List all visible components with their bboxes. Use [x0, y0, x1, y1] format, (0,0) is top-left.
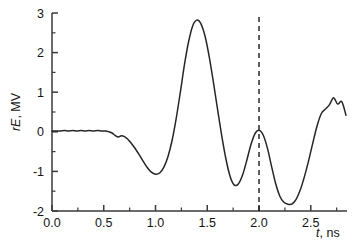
y-tick-label--1: -1: [33, 165, 44, 179]
x-tick-label-2.0: 2.0: [250, 216, 267, 230]
y-axis-tick-labels: -2-10123: [33, 7, 44, 219]
line-chart: -2-10123 0.00.51.01.52.02.5 t, ns rE, MV: [0, 0, 355, 243]
chart-figure: -2-10123 0.00.51.01.52.02.5 t, ns rE, MV: [0, 0, 355, 243]
x-tick-label-1.0: 1.0: [147, 216, 164, 230]
y-tick-label-2: 2: [37, 46, 44, 60]
y-tick-label-1: 1: [37, 86, 44, 100]
x-axis-tick-labels: 0.00.51.01.52.02.5: [43, 216, 319, 230]
x-tick-label-0.0: 0.0: [43, 216, 60, 230]
y-tick-label-3: 3: [37, 7, 44, 21]
y-axis-title: rE, MV: [9, 92, 23, 131]
x-axis-title: t, ns: [316, 226, 340, 240]
x-tick-label-0.5: 0.5: [95, 216, 112, 230]
data-curve: [52, 20, 346, 204]
x-tick-label-1.5: 1.5: [199, 216, 216, 230]
y-tick-label-0: 0: [37, 125, 44, 139]
